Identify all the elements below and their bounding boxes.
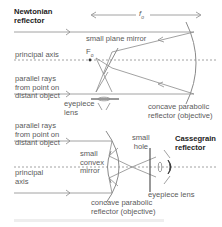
newtonian-parallel-rays-label: parallel rays from point on distant obje… (15, 75, 60, 101)
cassegrain-title: Cassegrain reflector (175, 135, 216, 152)
newtonian-eyepiece-label: eyepiece lens (64, 100, 94, 117)
newtonian-small-plane-mirror (104, 48, 118, 74)
cassegrain-principal-axis-label: principal axis (15, 169, 43, 186)
focal-length-arrow (91, 12, 201, 18)
convex-mirror-label: small convex mirror (80, 150, 104, 176)
focal-length-label: fo (139, 10, 144, 21)
small-hole-label: small hole (132, 134, 150, 151)
cassegrain-parallel-rays-label: parallel rays from point on distant obje… (15, 122, 60, 148)
faded-caption (14, 219, 164, 222)
cassegrain-objective-label: concave parabolic reflector (objective) (91, 199, 156, 216)
newtonian-objective-label: concave parabolic reflector (objective) (148, 103, 213, 120)
focal-point-label: Fo (86, 48, 93, 59)
newtonian-title: Newtonian reflector (14, 8, 52, 25)
newtonian-principal-axis-label: principal axis (15, 51, 59, 60)
small-plane-mirror-label: small plane mirror (86, 35, 146, 44)
eye-icon (168, 160, 171, 174)
